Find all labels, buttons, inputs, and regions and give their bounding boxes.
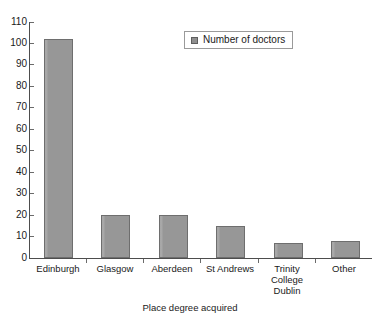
y-tick-label: 70 (3, 102, 27, 112)
y-tick-mark (30, 22, 34, 23)
y-tick-label: 30 (3, 188, 27, 198)
y-tick-mark (30, 193, 34, 194)
bar-st-andrews (216, 226, 245, 258)
y-tick-label: 50 (3, 145, 27, 155)
y-tick-mark (30, 150, 34, 151)
y-tick-mark (30, 107, 34, 108)
x-axis-title: Place degree acquired (0, 302, 380, 313)
y-tick-label: 10 (3, 231, 27, 241)
legend: Number of doctors (184, 31, 293, 49)
y-tick-mark (30, 129, 34, 130)
x-category-label-line: Dublin (258, 285, 316, 296)
x-category-label-glasgow: Glasgow (86, 263, 144, 274)
x-category-label-edinburgh: Edinburgh (29, 263, 87, 274)
bar-edinburgh (44, 39, 73, 258)
legend-swatch-icon (191, 37, 198, 44)
y-tick-mark (30, 43, 34, 44)
y-tick-label: 40 (3, 167, 27, 177)
x-category-label-other: Other (315, 263, 373, 274)
y-tick-label: 0 (3, 253, 27, 263)
bar-trinity-college-dublin (274, 243, 303, 258)
x-category-label-line: College (258, 274, 316, 285)
y-tick-label: 100 (3, 38, 27, 48)
y-tick-mark (30, 64, 34, 65)
y-tick-mark (30, 215, 34, 216)
legend-label: Number of doctors (203, 35, 285, 45)
bar-glasgow (101, 215, 130, 258)
y-tick-mark (30, 236, 34, 237)
bar-other (331, 241, 360, 258)
y-tick-label: 80 (3, 81, 27, 91)
y-axis-line (29, 22, 30, 259)
y-tick-label: 20 (3, 210, 27, 220)
y-tick-label: 110 (3, 17, 27, 27)
y-tick-mark (30, 172, 34, 173)
bar-aberdeen (159, 215, 188, 258)
x-category-label-st-andrews: St Andrews (200, 263, 260, 274)
x-category-label-line: Trinity (258, 263, 316, 274)
x-category-label-aberdeen: Aberdeen (143, 263, 201, 274)
y-tick-label: 60 (3, 124, 27, 134)
bar-chart: 110 100 90 80 70 60 50 40 (0, 0, 380, 320)
y-tick-label: 90 (3, 59, 27, 69)
y-tick-mark (30, 86, 34, 87)
